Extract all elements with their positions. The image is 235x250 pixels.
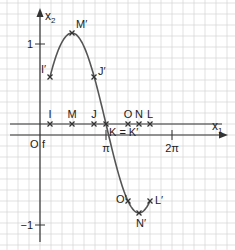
x-tick-label: 2π [165, 142, 179, 154]
x-axis-label: x1 [212, 119, 223, 135]
x-tick-label: π [102, 142, 110, 154]
line-f-label: f [42, 138, 46, 150]
y-tick-label: −1 [20, 219, 33, 231]
y-axis-arrow-icon [37, 8, 44, 17]
figure: x2 x1 O f π2π 1−1 IMJK = K′ONL I′M′J′O′N… [0, 0, 235, 250]
point-label: O [124, 108, 133, 120]
y-tick-label: 1 [27, 38, 33, 50]
point-label: N [135, 108, 143, 120]
curve-point-label: N′ [136, 217, 146, 229]
diagram-canvas: x2 x1 O f π2π 1−1 IMJK = K′ONL I′M′J′O′N… [0, 0, 235, 250]
curve-point-label: L′ [155, 194, 163, 206]
curve-point-label: I′ [41, 63, 46, 75]
origin-label: O [30, 138, 39, 150]
curve-path [50, 33, 150, 213]
grid [0, 0, 235, 250]
point-label: K = K′ [109, 126, 138, 138]
curve-point-label: O′ [116, 193, 127, 205]
point-label: M [67, 108, 76, 120]
point-label: I [48, 108, 51, 120]
y-axis-label: x2 [45, 9, 56, 25]
point-label: J [91, 108, 97, 120]
point-label: L [147, 108, 153, 120]
curve-point-label: J′ [98, 65, 106, 77]
line-points: IMJK = K′ONL [48, 108, 154, 138]
curve-point-label: M′ [76, 18, 87, 30]
